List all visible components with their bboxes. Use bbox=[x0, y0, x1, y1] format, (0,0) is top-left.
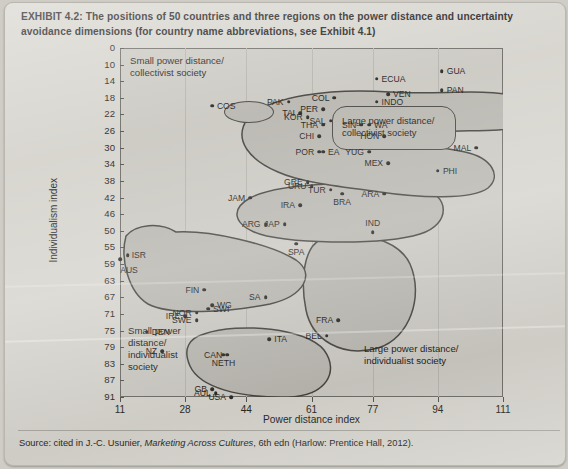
source-prefix: Source: cited in J.-C. Usunier, bbox=[19, 438, 145, 448]
source-suffix: , 6th edn (Harlow: Prentice Hall, 2012). bbox=[253, 438, 413, 448]
data-point-label: NZ bbox=[146, 346, 157, 355]
data-point bbox=[325, 334, 329, 338]
data-point bbox=[210, 104, 214, 108]
data-point bbox=[436, 169, 440, 173]
data-point bbox=[195, 318, 199, 322]
x-axis-title: Power distance index bbox=[120, 414, 503, 425]
data-point-label: THA bbox=[301, 120, 318, 129]
data-point-label: PAK bbox=[267, 97, 284, 106]
data-point bbox=[248, 196, 252, 200]
data-point bbox=[359, 123, 363, 127]
y-tick-label: 22 bbox=[89, 109, 120, 119]
data-point bbox=[371, 230, 375, 234]
source-note: Source: cited in J.-C. Usunier, Marketin… bbox=[19, 437, 559, 449]
data-point bbox=[206, 307, 210, 311]
data-point-label: ARG bbox=[242, 220, 261, 229]
data-point-label: BRA bbox=[333, 198, 351, 207]
data-point bbox=[222, 353, 226, 357]
x-tick-mark bbox=[503, 397, 504, 402]
data-point-label: YUG bbox=[345, 147, 364, 156]
data-point bbox=[321, 123, 325, 127]
data-point bbox=[375, 100, 379, 104]
data-point-label: EA bbox=[328, 147, 339, 156]
data-point bbox=[321, 150, 325, 154]
data-point-label: SA bbox=[249, 293, 260, 302]
data-point bbox=[118, 257, 122, 261]
y-tick-label: 18 bbox=[89, 93, 120, 103]
data-point bbox=[264, 295, 268, 299]
data-point bbox=[294, 242, 298, 246]
data-point-label: COS bbox=[217, 101, 236, 110]
y-tick-label: 59 bbox=[89, 259, 120, 269]
y-tick-label: 50 bbox=[89, 226, 120, 236]
x-tick-mark bbox=[246, 397, 247, 402]
data-point bbox=[229, 395, 233, 399]
data-point-label: PAN bbox=[447, 86, 464, 95]
data-point bbox=[283, 223, 287, 227]
data-point-label: BEL bbox=[306, 331, 322, 340]
page-title: EXHIBIT 4.2: The positions of 50 countri… bbox=[21, 9, 549, 39]
y-tick-label: 46 bbox=[89, 209, 120, 219]
data-point-label: FRA bbox=[316, 316, 333, 325]
y-tick-label: 0 bbox=[89, 43, 120, 53]
data-point-label: WA bbox=[374, 120, 388, 129]
x-tick-mark bbox=[373, 397, 374, 402]
data-point bbox=[321, 108, 325, 112]
data-point bbox=[440, 69, 444, 73]
grid-line bbox=[185, 48, 186, 397]
data-point bbox=[337, 318, 341, 322]
source-title: Marketing Across Cultures bbox=[145, 438, 254, 448]
data-point-label: DEN bbox=[152, 327, 170, 336]
x-tick-mark bbox=[120, 397, 121, 402]
data-point-label: URU bbox=[288, 182, 307, 191]
data-point-label: AUL bbox=[194, 389, 211, 398]
y-tick-label: 14 bbox=[89, 76, 120, 86]
data-point-label: ECUA bbox=[382, 74, 406, 83]
data-point-label: INDO bbox=[382, 97, 403, 106]
y-tick-label: 83 bbox=[89, 359, 120, 369]
y-tick-label: 55 bbox=[89, 242, 120, 252]
data-point-label: PER bbox=[300, 105, 318, 114]
data-point-label: JAP bbox=[264, 220, 280, 229]
y-tick-label: 26 bbox=[89, 126, 120, 136]
data-point bbox=[440, 88, 444, 92]
data-point bbox=[474, 146, 478, 150]
data-point bbox=[367, 123, 371, 127]
data-point-label: SWI bbox=[213, 304, 229, 313]
y-tick-label: 75 bbox=[89, 326, 120, 336]
data-point-label: IND bbox=[365, 219, 380, 228]
y-tick-label: 91 bbox=[89, 392, 120, 402]
data-point-label: GUA bbox=[447, 67, 466, 76]
data-point bbox=[298, 203, 302, 207]
data-point bbox=[287, 100, 291, 104]
data-point-label: SIN bbox=[342, 120, 356, 129]
data-point-label: ITA bbox=[274, 335, 287, 344]
data-point-label: HON bbox=[360, 132, 379, 141]
data-point-label: IRA bbox=[281, 201, 295, 210]
data-point bbox=[375, 77, 379, 81]
data-point-label: PHI bbox=[443, 166, 457, 175]
data-point bbox=[317, 134, 321, 138]
annotation-small-power-distance-collectivist: Small power distance/ collectivist socie… bbox=[130, 55, 224, 79]
data-point bbox=[225, 353, 229, 357]
exhibit-card: EXHIBIT 4.2: The positions of 50 countri… bbox=[4, 2, 566, 466]
x-tick-mark bbox=[185, 397, 186, 402]
data-point-label: MAL bbox=[454, 143, 472, 152]
data-point-label: CHI bbox=[299, 132, 314, 141]
data-point bbox=[382, 192, 386, 196]
y-axis-title-container: Individualism index bbox=[61, 3, 62, 352]
annotation-large-power-distance-individualist: Large power distance/ individualist soci… bbox=[364, 343, 458, 367]
scatter-plot: 0101418222630343842465055596367717579838… bbox=[120, 48, 503, 397]
data-point-label: ISR bbox=[132, 251, 146, 260]
data-point bbox=[160, 349, 164, 353]
y-tick-label: 30 bbox=[89, 143, 120, 153]
y-tick-label: 34 bbox=[89, 159, 120, 169]
data-point-label: JAM bbox=[228, 193, 245, 202]
y-tick-label: 42 bbox=[89, 193, 120, 203]
data-point bbox=[268, 338, 272, 342]
data-point bbox=[214, 391, 218, 395]
data-point-label: POR bbox=[296, 147, 315, 156]
data-point-label: COL bbox=[312, 93, 330, 102]
y-tick-label: 63 bbox=[89, 276, 120, 286]
data-point bbox=[195, 311, 199, 315]
